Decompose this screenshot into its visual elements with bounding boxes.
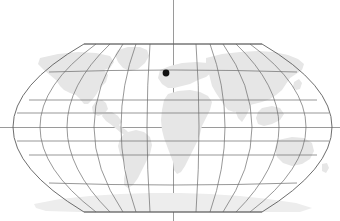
- land-australia: [275, 137, 314, 166]
- world-map-svg[interactable]: [0, 0, 340, 221]
- marker-layer[interactable]: [163, 70, 170, 77]
- land-southeast-asia: [256, 106, 284, 126]
- meridian-30w: [147, 44, 150, 212]
- land-africa: [161, 90, 212, 174]
- land-new-zealand: [322, 163, 329, 173]
- location-marker[interactable]: [163, 70, 170, 77]
- land-greenland: [115, 47, 149, 71]
- land-north-america: [38, 52, 122, 126]
- land-antarctica: [34, 193, 312, 212]
- map-viewport: [0, 0, 340, 221]
